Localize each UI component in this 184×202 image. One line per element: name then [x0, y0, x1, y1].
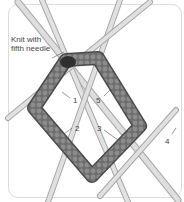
callout-line-2: fifth needle — [11, 44, 50, 53]
callout-line-1: Knit with — [11, 35, 50, 44]
callout-label: Knit with fifth needle — [11, 35, 50, 53]
knitted-fabric — [34, 56, 140, 176]
label-2: 2 — [75, 124, 79, 133]
label-4: 4 — [165, 137, 169, 146]
label-1: 1 — [73, 96, 77, 105]
knitting-illustration — [0, 0, 184, 202]
label-3: 3 — [97, 124, 101, 133]
label-5: 5 — [96, 96, 100, 105]
working-yarn — [60, 56, 76, 68]
